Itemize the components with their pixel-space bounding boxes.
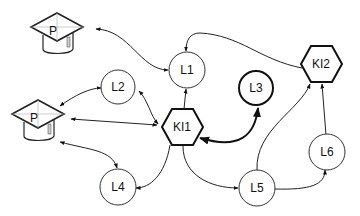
edge-p2-ki1: [71, 119, 157, 125]
edge-p1-l1: [96, 29, 168, 70]
node-label-l2: L2: [111, 80, 125, 94]
edge-p2-l4: [60, 142, 117, 168]
node-label-l6: L6: [320, 145, 334, 159]
edge-ki1-l5: [183, 146, 238, 188]
node-l6[interactable]: L6: [309, 134, 345, 170]
edge-ki1-l1: [184, 89, 186, 109]
node-l4[interactable]: L4: [100, 169, 136, 205]
node-ki1[interactable]: KI1: [162, 109, 203, 145]
node-label-ki1: KI1: [173, 120, 191, 134]
edge-ki1-l3: [200, 108, 258, 142]
node-label-l1: L1: [180, 63, 194, 77]
node-ki2[interactable]: KI2: [301, 46, 342, 82]
edge-ki1-l4: [136, 145, 170, 188]
edge-p2-l2: [60, 88, 101, 106]
concept-diagram: P P L1 L2 L3 L4 L5 L6 KI1 KI2: [0, 0, 360, 216]
node-label-l5: L5: [250, 181, 264, 195]
cap-label-p2: P: [30, 111, 38, 125]
node-l3[interactable]: L3: [239, 71, 273, 105]
edge-l6-ki2: [322, 84, 326, 135]
node-l5[interactable]: L5: [239, 170, 275, 206]
graduation-cap-icon[interactable]: P: [12, 100, 64, 141]
node-l1[interactable]: L1: [169, 52, 205, 88]
node-label-l4: L4: [111, 180, 125, 194]
node-label-l3: L3: [249, 81, 263, 95]
graduation-cap-icon[interactable]: P: [31, 13, 83, 54]
node-l2[interactable]: L2: [101, 70, 135, 104]
edge-l2-ki1: [139, 91, 158, 124]
node-label-ki2: KI2: [312, 57, 330, 71]
edge-l5-l6: [275, 170, 325, 189]
cap-label-p1: P: [49, 24, 57, 38]
